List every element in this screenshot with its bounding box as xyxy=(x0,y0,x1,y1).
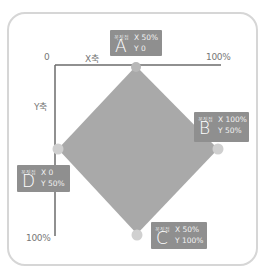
vertex-d-dot xyxy=(53,144,64,155)
vertex-y-value: Y 0 xyxy=(134,44,146,53)
vertex-x-value: X 50% xyxy=(134,33,158,42)
vertex-d-label: 꼭짓점 D X 0 Y 50% xyxy=(17,165,70,192)
vertex-x-value: X 0 xyxy=(41,168,53,177)
vertex-b-dot xyxy=(213,144,224,155)
vertex-x-value: X 100% xyxy=(218,115,247,124)
x-axis-label: X축 xyxy=(85,52,99,65)
vertex-c-label: 꼭짓점 C X 50% Y 100% xyxy=(151,222,207,249)
vertex-letter: D xyxy=(22,173,35,190)
vertex-letter: A xyxy=(115,38,127,55)
y-max-label: 100% xyxy=(26,233,51,243)
origin-label: 0 xyxy=(44,52,49,62)
vertex-y-value: Y 50% xyxy=(41,179,65,188)
x-max-label: 100% xyxy=(206,52,231,62)
vertex-letter: B xyxy=(199,120,210,137)
vertex-y-value: Y 100% xyxy=(175,236,203,245)
y-axis-label: Y축 xyxy=(34,100,47,113)
vertex-letter: C xyxy=(156,230,168,247)
vertex-x-value: X 50% xyxy=(175,225,199,234)
vertex-y-value: Y 50% xyxy=(218,126,242,135)
vertex-b-label: 꼭짓점 B X 100% Y 50% xyxy=(194,112,249,142)
vertex-c-dot xyxy=(132,230,143,241)
vertex-a-label: 꼭짓점 A X 50% Y 0 xyxy=(110,30,162,56)
diamond-shape xyxy=(58,66,218,234)
vertex-a-dot xyxy=(131,62,141,72)
